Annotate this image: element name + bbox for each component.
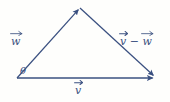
vector-w-glyph: w <box>142 36 152 47</box>
label-vector-w-text: w <box>11 35 20 48</box>
label-angle-theta: θ <box>20 66 26 76</box>
label-vector-v-minus-w: v − w <box>120 36 152 47</box>
minus-operator: − <box>127 35 143 48</box>
vector-v-glyph: v <box>120 36 127 47</box>
label-v-minus-w-first-text: v <box>120 35 127 48</box>
vector-triangle-svg <box>0 0 170 102</box>
vector-w-line <box>17 10 78 78</box>
label-vector-v-text: v <box>75 84 81 97</box>
label-v-minus-w-second-text: w <box>142 35 152 48</box>
vector-w-glyph: w <box>11 36 20 47</box>
vector-v-glyph: v <box>75 85 81 96</box>
label-vector-w: w <box>11 36 20 47</box>
label-vector-v: v <box>75 85 81 96</box>
vector-diagram-canvas: w v − w v θ <box>0 0 170 102</box>
